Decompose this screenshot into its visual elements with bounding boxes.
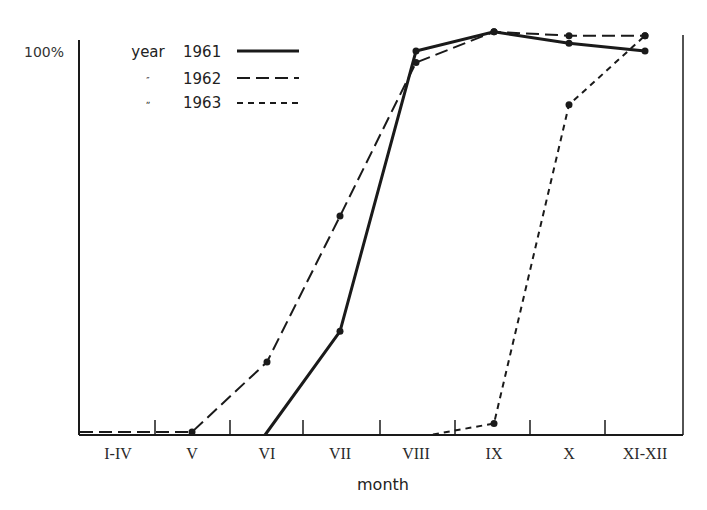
x-tick-label: V: [186, 445, 198, 462]
line-chart: 100% I-IVVVIVIIVIIIIXXXI-XII month year …: [0, 0, 707, 510]
x-tick-label: IX: [486, 445, 503, 462]
x-tick-label: X: [563, 445, 575, 462]
x-axis-title: month: [357, 475, 409, 494]
data-point-1963: [642, 32, 649, 39]
series-line-1962: [80, 32, 645, 432]
series-group: [80, 28, 649, 435]
data-point-1962: [264, 359, 271, 366]
data-point-1962: [566, 32, 573, 39]
x-tick-label: XI-XII: [623, 445, 667, 462]
x-tick-label: I-IV: [104, 445, 132, 462]
x-tick-label: VIII: [402, 445, 430, 462]
data-point-1962: [337, 213, 344, 220]
y-label-100: 100%: [24, 44, 64, 60]
series-line-1961: [265, 32, 645, 435]
legend-prefix-1963: ˮ: [146, 100, 151, 110]
data-point-1961: [566, 40, 573, 47]
x-ticks: [155, 420, 605, 435]
legend-label-1962: 1962: [183, 70, 221, 88]
legend-label-1963: 1963: [183, 94, 221, 112]
data-point-1962: [413, 59, 420, 66]
legend: year 1961 ″ 1962 ˮ 1963: [131, 43, 299, 112]
data-point-1963: [566, 101, 573, 108]
data-point-1961: [413, 48, 420, 55]
x-tick-label: VI: [259, 445, 276, 462]
data-point-1962: [491, 28, 498, 35]
data-point-1963: [491, 420, 498, 427]
x-tick-labels: I-IVVVIVIIVIIIIXXXI-XII: [104, 445, 667, 462]
axes: [79, 35, 683, 435]
data-point-1962: [189, 429, 196, 436]
x-tick-label: VII: [329, 445, 351, 462]
legend-prefix-1961: year: [131, 43, 165, 61]
data-point-1961: [642, 48, 649, 55]
series-line-1963: [400, 36, 645, 435]
data-point-1961: [337, 328, 344, 335]
legend-label-1961: 1961: [183, 43, 221, 61]
legend-prefix-1962: ″: [146, 76, 150, 86]
